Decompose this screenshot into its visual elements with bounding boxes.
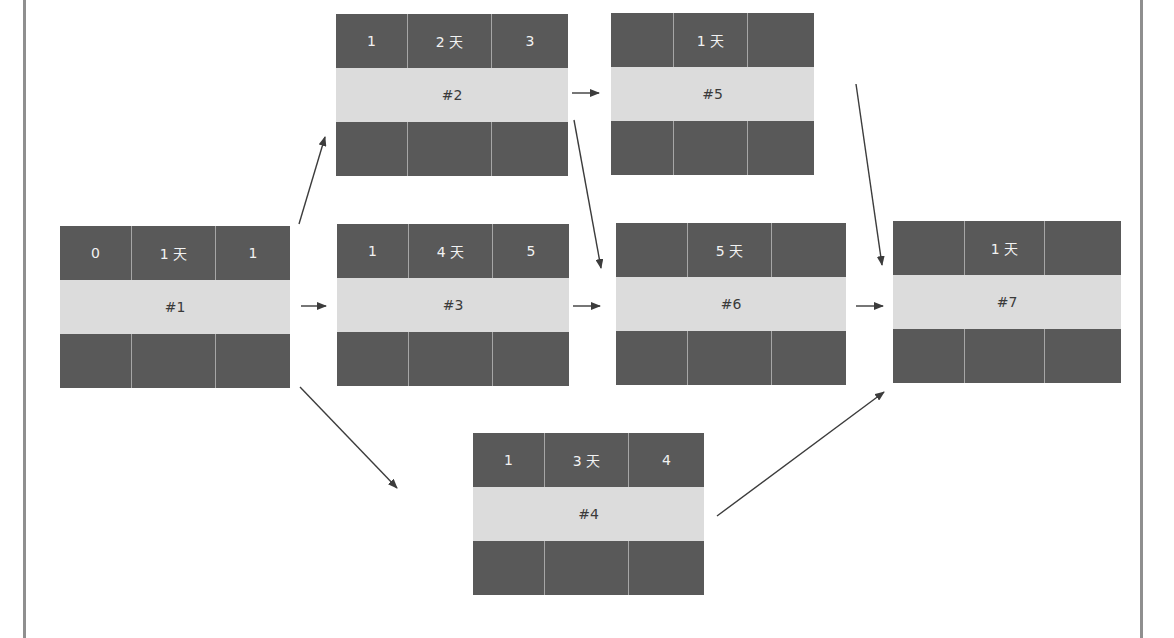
duration-cell: 5 天 — [688, 223, 772, 277]
node-header-row: 5 天 — [616, 223, 846, 277]
slack-cell — [674, 121, 748, 175]
duration-cell: 1 天 — [965, 221, 1045, 275]
early-start-cell: 1 — [337, 224, 409, 278]
task-id-label: #7 — [893, 275, 1121, 329]
arrow-1-to-4 — [300, 387, 397, 488]
early-finish-cell: 4 — [629, 433, 704, 487]
node-header-row: 1 3 天 4 — [473, 433, 704, 487]
late-start-cell — [473, 541, 545, 595]
node-header-row: 1 天 — [611, 13, 814, 67]
task-node-4[interactable]: 1 3 天 4 #4 — [473, 433, 704, 595]
node-header-row: 1 2 天 3 — [336, 14, 568, 68]
late-start-cell — [337, 332, 409, 386]
task-node-3[interactable]: 1 4 天 5 #3 — [337, 224, 569, 386]
duration-cell: 1 天 — [132, 226, 216, 280]
node-footer-row — [60, 334, 290, 388]
early-finish-cell — [748, 13, 814, 67]
slack-cell — [688, 331, 772, 385]
late-finish-cell — [492, 122, 568, 176]
task-id-label: #5 — [611, 67, 814, 121]
late-finish-cell — [493, 332, 569, 386]
late-finish-cell — [1045, 329, 1121, 383]
task-id-label: #4 — [473, 487, 704, 541]
late-finish-cell — [772, 331, 846, 385]
node-footer-row — [336, 122, 568, 176]
late-finish-cell — [216, 334, 290, 388]
early-start-cell — [611, 13, 674, 67]
early-finish-cell — [772, 223, 846, 277]
node-footer-row — [616, 331, 846, 385]
early-finish-cell: 3 — [492, 14, 568, 68]
task-id-label: #2 — [336, 68, 568, 122]
node-footer-row — [473, 541, 704, 595]
task-node-2[interactable]: 1 2 天 3 #2 — [336, 14, 568, 176]
node-header-row: 1 天 — [893, 221, 1121, 275]
node-header-row: 1 4 天 5 — [337, 224, 569, 278]
task-id-label: #6 — [616, 277, 846, 331]
task-node-1[interactable]: 0 1 天 1 #1 — [60, 226, 290, 388]
late-start-cell — [60, 334, 132, 388]
late-finish-cell — [748, 121, 814, 175]
early-start-cell: 0 — [60, 226, 132, 280]
early-start-cell — [893, 221, 965, 275]
node-footer-row — [893, 329, 1121, 383]
duration-cell: 3 天 — [545, 433, 629, 487]
late-start-cell — [336, 122, 408, 176]
slack-cell — [965, 329, 1045, 383]
task-node-5[interactable]: 1 天 #5 — [611, 13, 814, 175]
late-finish-cell — [629, 541, 704, 595]
early-start-cell: 1 — [473, 433, 545, 487]
early-finish-cell: 5 — [493, 224, 569, 278]
early-start-cell: 1 — [336, 14, 408, 68]
task-id-label: #3 — [337, 278, 569, 332]
arrow-4-to-7 — [717, 392, 884, 516]
node-footer-row — [611, 121, 814, 175]
arrow-5-to-7 — [856, 84, 882, 265]
early-finish-cell: 1 — [216, 226, 290, 280]
task-node-6[interactable]: 5 天 #6 — [616, 223, 846, 385]
slack-cell — [408, 122, 492, 176]
arrow-2-to-6 — [574, 120, 601, 268]
early-finish-cell — [1045, 221, 1121, 275]
late-start-cell — [611, 121, 674, 175]
duration-cell: 2 天 — [408, 14, 492, 68]
duration-cell: 1 天 — [674, 13, 748, 67]
node-header-row: 0 1 天 1 — [60, 226, 290, 280]
slack-cell — [545, 541, 629, 595]
late-start-cell — [616, 331, 688, 385]
late-start-cell — [893, 329, 965, 383]
slack-cell — [409, 332, 493, 386]
duration-cell: 4 天 — [409, 224, 493, 278]
node-footer-row — [337, 332, 569, 386]
task-id-label: #1 — [60, 280, 290, 334]
early-start-cell — [616, 223, 688, 277]
task-node-7[interactable]: 1 天 #7 — [893, 221, 1121, 383]
slack-cell — [132, 334, 216, 388]
arrow-1-to-2 — [299, 137, 325, 224]
